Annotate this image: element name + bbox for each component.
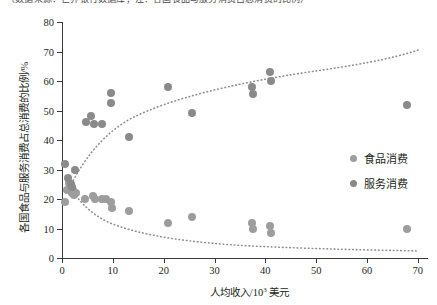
x-tick-label-70: 70 bbox=[413, 265, 424, 276]
x-tick-0 bbox=[62, 258, 63, 263]
x-tick-label-0: 0 bbox=[59, 265, 64, 276]
data-point bbox=[267, 229, 275, 237]
data-point bbox=[164, 219, 172, 227]
x-axis-label-exponent: 3 bbox=[263, 286, 267, 294]
data-point bbox=[266, 68, 274, 76]
legend-label-service: 服务消费 bbox=[364, 175, 408, 191]
data-point bbox=[403, 225, 411, 233]
y-tick-60 bbox=[57, 81, 62, 82]
x-axis-label-prefix: 人均收入/10 bbox=[210, 287, 263, 298]
data-point bbox=[61, 198, 69, 206]
legend-label-food: 食品消费 bbox=[364, 150, 408, 166]
top-caption: （数据来源：世界银行数据库；注：各国食品与服务消费占总消费的比例） bbox=[0, 0, 437, 9]
data-point bbox=[125, 133, 133, 141]
y-tick-label-60: 60 bbox=[44, 76, 55, 87]
y-tick-label-70: 70 bbox=[44, 46, 55, 57]
x-tick-70 bbox=[418, 258, 419, 263]
data-point bbox=[61, 160, 69, 168]
data-point bbox=[125, 207, 133, 215]
x-tick-50 bbox=[316, 258, 317, 263]
x-tick-label-30: 30 bbox=[209, 265, 220, 276]
y-tick-10 bbox=[57, 229, 62, 230]
x-tick-30 bbox=[215, 258, 216, 263]
data-point bbox=[98, 120, 106, 128]
x-tick-60 bbox=[367, 258, 368, 263]
data-point bbox=[188, 109, 196, 117]
x-axis-label: 人均收入/103 美元 bbox=[62, 284, 437, 299]
data-point bbox=[164, 83, 172, 91]
data-point bbox=[267, 77, 275, 85]
y-tick-label-0: 0 bbox=[49, 253, 54, 264]
x-tick-label-50: 50 bbox=[311, 265, 322, 276]
legend-swatch-food-icon bbox=[350, 155, 357, 162]
y-tick-label-40: 40 bbox=[44, 135, 55, 146]
data-point bbox=[90, 120, 98, 128]
data-point bbox=[403, 101, 411, 109]
x-tick-label-40: 40 bbox=[260, 265, 271, 276]
data-point bbox=[108, 204, 116, 212]
x-tick-label-20: 20 bbox=[158, 265, 169, 276]
y-tick-30 bbox=[57, 170, 62, 171]
y-tick-label-80: 80 bbox=[44, 17, 55, 28]
x-axis-label-suffix: 美元 bbox=[269, 287, 289, 298]
legend-item-service[interactable]: 服务消费 bbox=[350, 175, 408, 191]
x-tick-10 bbox=[113, 258, 114, 263]
legend-item-food[interactable]: 食品消费 bbox=[350, 150, 408, 166]
y-axis-label: 各国食品与服务消费占总消费的比例/% bbox=[16, 33, 31, 263]
data-point bbox=[188, 213, 196, 221]
y-tick-50 bbox=[57, 111, 62, 112]
y-tick-label-50: 50 bbox=[44, 105, 55, 116]
x-tick-40 bbox=[265, 258, 266, 263]
data-point bbox=[68, 183, 76, 191]
figure-container: （数据来源：世界银行数据库；注：各国食品与服务消费占总消费的比例） 各国食品与服… bbox=[0, 0, 437, 305]
trendlines-layer bbox=[62, 22, 428, 258]
data-point bbox=[107, 89, 115, 97]
x-tick-20 bbox=[164, 258, 165, 263]
y-tick-label-20: 20 bbox=[44, 194, 55, 205]
legend-swatch-service-icon bbox=[350, 180, 357, 187]
y-tick-70 bbox=[57, 52, 62, 53]
y-tick-80 bbox=[57, 22, 62, 23]
x-axis-line bbox=[62, 258, 428, 259]
x-tick-label-10: 10 bbox=[108, 265, 119, 276]
data-point bbox=[107, 99, 115, 107]
plot-area: 0 10 20 30 40 50 60 70 80 0 10 20 30 40 … bbox=[62, 22, 428, 258]
y-tick-40 bbox=[57, 140, 62, 141]
data-point bbox=[249, 225, 257, 233]
x-tick-label-60: 60 bbox=[362, 265, 373, 276]
data-point bbox=[71, 166, 79, 174]
top-caption-text: （数据来源：世界银行数据库；注：各国食品与服务消费占总消费的比例） bbox=[0, 0, 437, 4]
data-point bbox=[249, 90, 257, 98]
y-tick-label-10: 10 bbox=[44, 223, 55, 234]
legend: 食品消费 服务消费 bbox=[350, 150, 408, 200]
y-tick-label-30: 30 bbox=[44, 164, 55, 175]
